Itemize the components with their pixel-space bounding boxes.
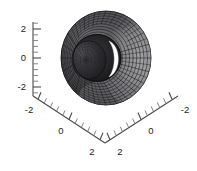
vertical-axis: 2 0 -2 (18, 22, 41, 96)
z-tick-label-bottom: -2 (18, 81, 26, 92)
x-tick-label-mid: 0 (58, 125, 63, 136)
y-tick-label-end: -2 (181, 104, 189, 115)
torus-3d-plot: 2 0 -2 -2 0 (0, 0, 197, 171)
torus-surface (61, 5, 160, 112)
torus-inner-wall (72, 41, 106, 79)
x-tick-label-end: 2 (89, 146, 94, 157)
x-tick-label-start: -2 (25, 104, 33, 115)
y-tick-label-mid: 0 (148, 125, 153, 136)
y-tick-label-start: 2 (117, 146, 122, 157)
plot-canvas: 2 0 -2 -2 0 (0, 0, 197, 171)
z-tick-label-mid: 0 (21, 52, 26, 63)
z-tick-label-top: 2 (21, 23, 26, 34)
